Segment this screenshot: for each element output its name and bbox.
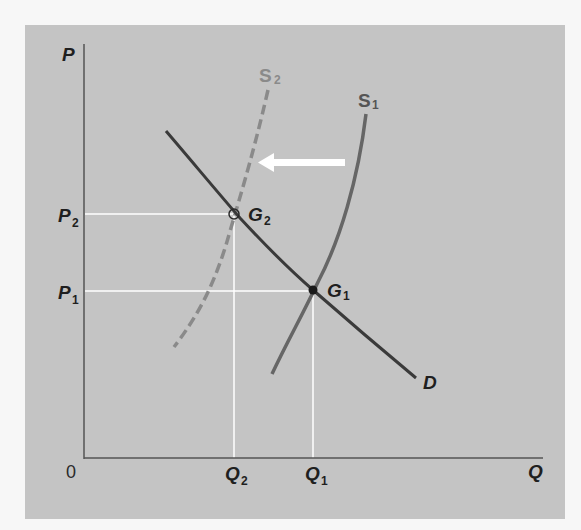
svg-text:Q: Q <box>225 463 240 484</box>
svg-text:Q: Q <box>305 463 320 484</box>
svg-text:2: 2 <box>72 216 79 230</box>
svg-text:1: 1 <box>72 293 79 307</box>
origin-label: 0 <box>66 462 76 482</box>
svg-text:1: 1 <box>321 474 328 488</box>
demand-label: D <box>423 372 437 393</box>
svg-text:2: 2 <box>264 214 271 228</box>
svg-text:1: 1 <box>343 289 350 303</box>
svg-text:1: 1 <box>372 98 379 112</box>
svg-text:S: S <box>358 90 371 111</box>
y-axis-label: P <box>62 44 75 65</box>
svg-text:G: G <box>248 204 263 225</box>
svg-text:2: 2 <box>241 474 248 488</box>
svg-text:2: 2 <box>274 73 281 87</box>
svg-text:P: P <box>58 205 71 226</box>
x-axis-label: Q <box>528 461 543 482</box>
equilibrium-point-g1 <box>309 286 318 295</box>
svg-text:P: P <box>58 282 71 303</box>
svg-text:G: G <box>327 280 342 301</box>
supply-demand-chart: P Q 0 P 2 P 1 Q 2 Q 1 G 2 G 1 S 2 S 1 D <box>0 0 581 530</box>
svg-text:S: S <box>259 65 272 86</box>
